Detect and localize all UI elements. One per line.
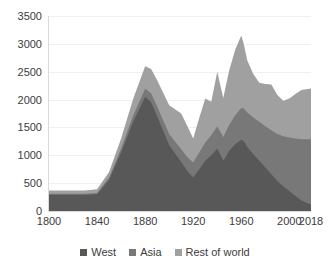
x-tick-label: 2018 bbox=[299, 216, 323, 227]
y-tick-label: 3000 bbox=[0, 39, 42, 50]
legend-item-rest-of-world[interactable]: Rest of world bbox=[175, 247, 250, 258]
legend-item-asia[interactable]: Asia bbox=[129, 247, 161, 258]
legend-label: West bbox=[91, 247, 116, 258]
x-tick-label: 1880 bbox=[133, 216, 157, 227]
y-tick-label: 3500 bbox=[0, 11, 42, 22]
legend-swatch-icon bbox=[80, 249, 87, 256]
area-chart: 0500100015002000250030003500 18001840188… bbox=[0, 0, 330, 271]
x-tick-label: 1920 bbox=[181, 216, 205, 227]
legend-swatch-icon bbox=[129, 249, 136, 256]
y-tick-label: 0 bbox=[0, 206, 42, 217]
x-tick-label: 1840 bbox=[85, 216, 109, 227]
y-tick-label: 1500 bbox=[0, 122, 42, 133]
plot-area bbox=[49, 16, 311, 211]
y-tick-label: 2000 bbox=[0, 95, 42, 106]
x-tick-label: 1800 bbox=[37, 216, 61, 227]
stacked-area-series bbox=[49, 16, 311, 211]
y-tick-label: 500 bbox=[0, 178, 42, 189]
legend-item-west[interactable]: West bbox=[80, 247, 116, 258]
x-tick-label: 1960 bbox=[229, 216, 253, 227]
legend-swatch-icon bbox=[175, 249, 182, 256]
legend-label: Rest of world bbox=[186, 247, 250, 258]
x-axis-line bbox=[48, 211, 311, 212]
legend-label: Asia bbox=[140, 247, 161, 258]
chart-legend: WestAsiaRest of world bbox=[0, 247, 330, 258]
y-tick-label: 1000 bbox=[0, 150, 42, 161]
y-tick-label: 2500 bbox=[0, 67, 42, 78]
